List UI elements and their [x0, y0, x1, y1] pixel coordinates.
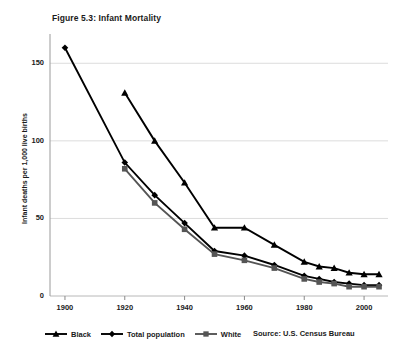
legend-item: Total population	[100, 329, 185, 339]
gridlines	[50, 63, 388, 296]
legend-item-label: Total population	[127, 330, 185, 339]
x-tick-label: 1940	[165, 303, 205, 312]
figure-container: Figure 5.3: Infant Mortality Infant deat…	[0, 0, 404, 357]
legend-item: Black	[44, 329, 91, 339]
legend-marker-square-icon	[194, 329, 218, 339]
legend-item: White	[194, 329, 241, 339]
legend-marker-triangle-icon	[44, 329, 68, 339]
x-axis-ticks	[65, 296, 364, 300]
y-tick-label: 150	[18, 58, 44, 67]
x-tick-label: 2000	[344, 303, 384, 312]
y-tick-label: 100	[18, 136, 44, 145]
legend-marker-diamond-icon	[100, 329, 124, 339]
legend-item-label: Black	[71, 330, 91, 339]
x-tick-label: 1920	[105, 303, 145, 312]
legend-item-label: White	[221, 330, 241, 339]
chart-legend: BlackTotal populationWhite	[44, 329, 241, 339]
y-tick-label: 50	[18, 213, 44, 222]
source-note: Source: U.S. Census Bureau	[253, 329, 355, 338]
y-tick-label: 0	[18, 291, 44, 300]
x-tick-label: 1980	[284, 303, 324, 312]
x-tick-label: 1900	[45, 303, 85, 312]
data-series-layer	[62, 44, 383, 289]
x-tick-label: 1960	[224, 303, 264, 312]
